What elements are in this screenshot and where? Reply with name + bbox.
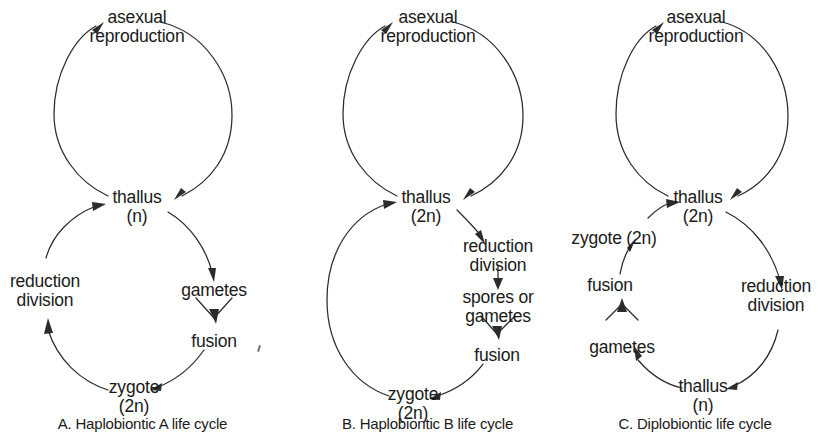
- node-zygote: zygote (2n): [571, 229, 656, 248]
- arrowhead-asexual-to-thallus: [463, 188, 475, 200]
- node-label-line2: reproduction: [90, 27, 185, 46]
- curve-asexual-to-thallus: [160, 22, 232, 196]
- curve-reduction-to-thallus: [46, 206, 96, 258]
- arrowhead-spores-to-fusion: [492, 326, 502, 340]
- node-label-line2: (2n): [673, 207, 722, 226]
- curve-thallus-to-reduction: [457, 210, 481, 236]
- arrowhead-reduction-to-thallus: [92, 202, 106, 211]
- node-label-line1: fusion: [474, 346, 520, 365]
- arrowhead-zygote-to-reduction: [44, 318, 53, 334]
- node-label-line1: asexual: [381, 8, 476, 27]
- node-label-line2: reproduction: [649, 27, 744, 46]
- node-label-line2: (n): [112, 207, 161, 226]
- node-thallus-2n: thallus (2n): [673, 188, 722, 226]
- curve-asexual-to-thallus: [722, 22, 788, 196]
- node-asexual-reproduction: asexual reproduction: [381, 8, 476, 46]
- arrowhead-asexual-to-thallus: [174, 188, 186, 200]
- curve-reduction-to-thallusn: [734, 330, 778, 386]
- curve-gametes-fork-left: [196, 298, 214, 318]
- node-label-line1: zygote: [388, 385, 438, 404]
- node-fusion: fusion: [474, 346, 520, 365]
- node-fusion: fusion: [587, 276, 633, 295]
- panel-haplobiontic-a: asexual reproduction thallus (n) gametes…: [0, 0, 285, 429]
- arrowhead-zygote-to-thallus: [383, 200, 397, 209]
- node-label-line2: gametes: [462, 307, 533, 326]
- node-asexual-reproduction: asexual reproduction: [90, 8, 185, 46]
- node-label-line2: (2n): [401, 207, 450, 226]
- node-gametes: gametes: [181, 281, 247, 300]
- node-label-line2: (n): [678, 396, 727, 415]
- node-label-line1: zygote (2n): [571, 229, 656, 248]
- arrowhead-gametes-to-fusion: [617, 298, 627, 312]
- node-label-line2: (2n): [109, 397, 159, 416]
- arrowhead-reduction-to-thallusn: [726, 382, 738, 390]
- node-label-line2: reproduction: [381, 27, 476, 46]
- node-zygote: zygote (2n): [109, 378, 159, 416]
- curve-thallus-to-gametes: [168, 212, 212, 272]
- curve-thallus-to-asexual: [54, 26, 108, 196]
- caption-panel-b: B. Haplobiontic B life cycle: [285, 415, 570, 432]
- node-label-line1: asexual: [90, 8, 185, 27]
- node-label-line1: thallus: [678, 377, 727, 396]
- node-label-line1: asexual: [649, 8, 744, 27]
- node-label-line1: spores or: [462, 288, 533, 307]
- node-label-line1: reduction: [10, 272, 80, 291]
- node-thallus-n: thallus (n): [678, 377, 727, 415]
- node-label-line1: thallus: [401, 188, 450, 207]
- node-label-line2: division: [741, 296, 811, 315]
- node-label-line1: thallus: [673, 188, 722, 207]
- node-reduction-division: reduction division: [463, 237, 533, 275]
- curve-thallus-to-asexual: [616, 26, 668, 196]
- arrowhead-gametes-to-fusion: [209, 309, 219, 324]
- node-reduction-division: reduction division: [10, 272, 80, 310]
- arrowhead-asexual-to-thallus: [730, 188, 742, 200]
- node-label-line1: fusion: [191, 332, 237, 351]
- node-asexual-reproduction: asexual reproduction: [649, 8, 744, 46]
- curve-thallus-to-asexual: [343, 26, 397, 196]
- node-label-line1: reduction: [463, 237, 533, 256]
- node-label-line1: reduction: [741, 277, 811, 296]
- node-label-line1: gametes: [589, 338, 655, 357]
- curve-fusion-to-zygote: [437, 364, 483, 396]
- caption-panel-c: C. Diplobiontic life cycle: [570, 415, 820, 432]
- node-label-line2: division: [10, 291, 80, 310]
- node-label-line1: gametes: [181, 281, 247, 300]
- panel-diplobiontic: asexual reproduction thallus (2n) zygote…: [570, 0, 820, 429]
- curve-thallusn-to-gametes: [638, 360, 682, 388]
- node-thallus: thallus (2n): [401, 188, 450, 226]
- panel-haplobiontic-b: asexual reproduction thallus (2n) reduct…: [285, 0, 570, 429]
- node-label-line2: division: [463, 256, 533, 275]
- curve-fusion-to-zygote: [158, 350, 204, 387]
- curve-zygote-to-reduction: [48, 330, 108, 390]
- curve-zygote-to-thallus: [327, 204, 389, 396]
- node-reduction-division: reduction division: [741, 277, 811, 315]
- node-thallus: thallus (n): [112, 188, 161, 226]
- node-spores-or-gametes: spores or gametes: [462, 288, 533, 326]
- node-gametes: gametes: [589, 338, 655, 357]
- curve-thallus2n-to-reduction: [726, 212, 780, 280]
- node-fusion: fusion: [191, 332, 237, 351]
- node-label-line1: zygote: [109, 378, 159, 397]
- node-label-line1: fusion: [587, 276, 633, 295]
- caption-panel-a: A. Haplobiontic A life cycle: [0, 415, 285, 432]
- node-label-line1: thallus: [112, 188, 161, 207]
- curve-asexual-to-thallus: [453, 22, 523, 196]
